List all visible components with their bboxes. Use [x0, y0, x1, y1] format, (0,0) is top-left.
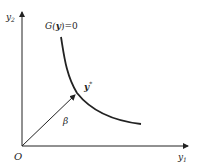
- y-axis-label: y2: [5, 12, 15, 23]
- diagram-canvas: y2 G(y)=0 y* β O y1: [0, 0, 197, 168]
- optimal-point-label: y*: [83, 80, 92, 92]
- x-axis-label: y1: [177, 152, 187, 163]
- beta-label: β: [62, 116, 68, 126]
- curve-equation-label: G(y)=0: [45, 21, 78, 31]
- origin-label: O: [14, 151, 22, 162]
- constraint-curve: [61, 37, 141, 124]
